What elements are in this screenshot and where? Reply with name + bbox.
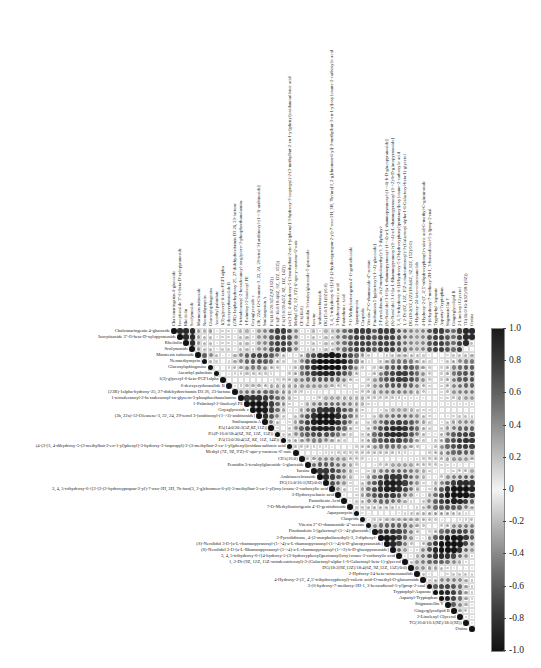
correlation-dot bbox=[336, 426, 341, 431]
correlation-dot bbox=[440, 391, 442, 393]
correlation-dot bbox=[372, 432, 376, 436]
correlation-dot bbox=[354, 359, 358, 363]
correlation-dot bbox=[422, 506, 425, 509]
correlation-dot bbox=[336, 371, 341, 376]
correlation-dot bbox=[446, 421, 449, 424]
correlation-dot bbox=[343, 488, 346, 491]
correlation-dot bbox=[433, 328, 438, 333]
correlation-dot bbox=[465, 568, 466, 569]
correlation-dot bbox=[396, 438, 401, 443]
correlation-dot bbox=[422, 475, 425, 478]
correlation-dot bbox=[294, 341, 298, 345]
column-label: 4-Hydroxy-2-(3', 4',5'-trihydroxyphenyl)… bbox=[421, 181, 427, 326]
correlation-dot bbox=[435, 422, 436, 423]
correlation-dot bbox=[348, 414, 352, 418]
correlation-dot bbox=[372, 347, 377, 352]
correlation-dot bbox=[306, 377, 310, 381]
row-label: Smilasaponin A bbox=[232, 419, 261, 425]
correlation-dot bbox=[361, 396, 364, 399]
correlation-dot bbox=[305, 359, 310, 364]
correlation-dot bbox=[318, 457, 322, 461]
row-label: Pinobanksin 5-[galactosyl-(1->4)-glucosi… bbox=[289, 528, 371, 534]
correlation-dot bbox=[409, 536, 413, 540]
column-label: 1(3)-glyceryl-6-keto-PGF1alpha bbox=[220, 266, 226, 326]
correlation-dot bbox=[355, 506, 358, 509]
correlation-dot bbox=[397, 523, 402, 528]
correlation-dot bbox=[403, 445, 407, 449]
correlation-dot bbox=[355, 421, 358, 424]
correlation-dot bbox=[469, 438, 474, 443]
correlation-dot bbox=[410, 452, 412, 454]
row-label: (3b, 22a)-12-Oleanene-3, 22, 24, 29-tetr… bbox=[115, 413, 255, 419]
correlation-dot bbox=[330, 481, 335, 486]
correlation-dot bbox=[422, 354, 425, 357]
correlation-dot bbox=[319, 445, 322, 448]
correlation-dot bbox=[440, 366, 442, 368]
correlation-dot bbox=[416, 530, 419, 533]
correlation-dot bbox=[429, 397, 430, 398]
correlation-dot bbox=[452, 354, 455, 357]
correlation-dot bbox=[384, 480, 390, 486]
correlation-dot bbox=[300, 365, 304, 369]
correlation-dot bbox=[245, 359, 250, 364]
correlation-dot bbox=[390, 541, 395, 546]
correlation-dot bbox=[464, 390, 468, 394]
correlation-dot bbox=[464, 426, 469, 431]
correlation-dot bbox=[470, 390, 474, 394]
correlation-dot bbox=[355, 379, 357, 381]
correlation-dot bbox=[453, 567, 455, 569]
column-label: Aspartyl-Tryptophan bbox=[439, 287, 445, 326]
correlation-dot bbox=[343, 451, 346, 454]
correlation-dot bbox=[245, 372, 248, 375]
correlation-dot bbox=[318, 384, 322, 388]
correlation-dot bbox=[301, 342, 303, 344]
correlation-dot bbox=[385, 390, 389, 394]
correlation-dot bbox=[403, 359, 407, 363]
correlation-dot bbox=[355, 414, 359, 418]
correlation-dot bbox=[422, 469, 425, 472]
column-label: Oxtine bbox=[469, 313, 475, 326]
correlation-dot bbox=[471, 579, 474, 582]
correlation-dot bbox=[434, 481, 437, 484]
correlation-dot bbox=[396, 420, 401, 425]
correlation-dot bbox=[257, 353, 262, 358]
correlation-dot bbox=[216, 336, 218, 338]
column-label: Glucosylsphingosine bbox=[208, 287, 214, 326]
colorbar-tick-label: -0.2 bbox=[509, 516, 524, 526]
row-label: 2-Pyrrolidinone, 4-(2-morpholinoethyl)-3… bbox=[276, 535, 376, 541]
correlation-dot bbox=[287, 347, 292, 352]
row-label: (23R)-1alpha-hydroxy-25, 27-didehydrovit… bbox=[108, 389, 231, 395]
correlation-dot bbox=[317, 419, 323, 425]
correlation-dot bbox=[433, 505, 437, 509]
correlation-dot bbox=[445, 444, 450, 449]
correlation-dot bbox=[428, 493, 431, 496]
correlation-dot bbox=[428, 451, 431, 454]
correlation-dot bbox=[258, 372, 261, 375]
correlation-dot bbox=[183, 334, 188, 339]
correlation-dot bbox=[439, 584, 444, 589]
correlation-dot bbox=[403, 420, 408, 425]
correlation-dot bbox=[373, 384, 377, 388]
correlation-dot bbox=[307, 391, 309, 393]
correlation-dot bbox=[422, 360, 425, 363]
colorbar-tick bbox=[503, 553, 506, 554]
correlation-dot bbox=[464, 450, 469, 455]
colorbar-tick bbox=[503, 425, 506, 426]
correlation-dot bbox=[398, 506, 401, 509]
correlation-dot bbox=[275, 408, 279, 412]
correlation-dot bbox=[257, 359, 262, 364]
correlation-dot bbox=[234, 336, 236, 338]
correlation-dot bbox=[335, 420, 340, 425]
correlation-dot bbox=[330, 474, 335, 479]
correlation-dot bbox=[427, 347, 432, 352]
correlation-dot bbox=[457, 486, 463, 492]
correlation-dot bbox=[410, 549, 412, 551]
correlation-dot bbox=[342, 414, 347, 419]
correlation-dot bbox=[445, 535, 451, 541]
correlation-dot bbox=[294, 397, 296, 399]
correlation-dot bbox=[294, 335, 298, 339]
correlation-dot bbox=[440, 481, 444, 485]
correlation-dot bbox=[451, 492, 457, 498]
correlation-dot bbox=[190, 334, 195, 339]
correlation-dot bbox=[301, 348, 303, 350]
